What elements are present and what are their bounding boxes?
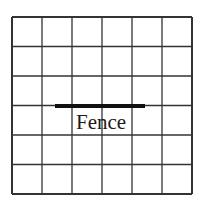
fence-label: Fence xyxy=(76,110,126,134)
grid-diagram xyxy=(0,0,204,207)
